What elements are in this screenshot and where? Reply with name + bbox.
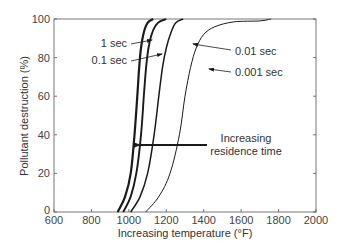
plot-frame [54,19,316,212]
label-0-1-sec: 0.1 sec [92,54,128,66]
x-tick-label: 2000 [304,214,328,226]
label-0-001-sec: 0.001 sec [235,66,283,78]
x-axis-ticks: 600800100012001400160018002000 [45,209,328,226]
y-tick-label: 0 [44,204,50,216]
chart-svg: 600800100012001400160018002000 020406080… [0,0,346,251]
x-axis-title: Increasing temperature (°F) [118,227,253,239]
label-0-01-sec: 0.01 sec [235,45,277,57]
y-tick-label: 20 [38,167,50,179]
x-tick-label: 800 [82,214,100,226]
y-tick-label: 80 [38,52,50,64]
x-tick-label: 1800 [266,214,290,226]
y-tick-label: 100 [32,13,50,25]
series-line-0-01-sec [131,19,183,212]
x-tick-label: 1000 [117,214,141,226]
x-tick-label: 1400 [191,214,215,226]
x-tick-label: 1600 [229,214,253,226]
y-axis-ticks: 020406080100 [32,13,316,216]
arrow-label-line1: Increasing [221,132,272,144]
y-tick-label: 40 [38,129,50,141]
y-tick-label: 60 [38,90,50,102]
pointer-0-01-sec [193,44,231,50]
label-1-sec: 1 sec [101,37,128,49]
y-axis-title: Pollutant destruction (%) [18,56,30,176]
arrow-label-line2: residence time [210,145,282,157]
x-tick-label: 1200 [154,214,178,226]
pointer-0-001-sec [209,69,231,72]
